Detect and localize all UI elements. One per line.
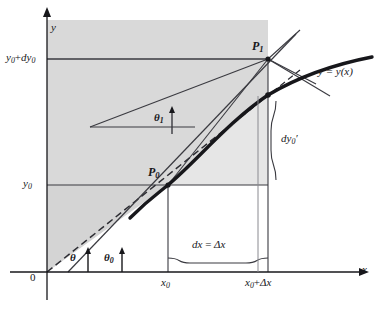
x-tick-x0: x0	[161, 277, 170, 290]
point-label-P1: P1	[252, 40, 264, 54]
x-tick-x0-plus-dx: x0+Δx	[245, 277, 271, 290]
x-axis-label: x	[362, 264, 367, 275]
dx-equals: =	[202, 238, 214, 250]
point-label-P0: P0	[148, 166, 160, 180]
dy0p-prime: ′	[295, 132, 297, 144]
marker-P0	[165, 182, 170, 187]
dy0prime-label: dy0′	[281, 133, 298, 146]
theta0-sub: 0	[110, 256, 114, 265]
dx-delta: Δx	[214, 238, 225, 250]
dx-brace	[168, 258, 268, 263]
theta-glyph: θ	[70, 251, 76, 263]
y0-sub: 0	[28, 182, 32, 191]
origin-label: 0	[30, 272, 36, 283]
P0-sub: 0	[155, 170, 159, 180]
angle-label-theta1: θ1	[154, 112, 164, 125]
dy0prime-brace	[271, 100, 276, 180]
x0-sub: 0	[166, 281, 170, 290]
differential-diagram: y x 0 y0+dy0 y0 x0 x0+Δx P0 P1 y = y(x) …	[0, 0, 380, 309]
dx-brace-label: dx = Δx	[192, 239, 225, 250]
angle-label-theta: θ	[70, 252, 76, 263]
curve-label: y = y(x)	[318, 66, 353, 77]
y-axis-label: y	[51, 22, 56, 33]
x0dx-delta: Δx	[260, 276, 271, 288]
theta1-sub: 1	[160, 116, 164, 125]
y-tick-y0-plus-dy0: y0+dy0	[6, 52, 35, 65]
diagram-canvas	[0, 0, 380, 309]
dx-text: dx	[192, 238, 202, 250]
y-tick-dy-sub: 0	[31, 56, 35, 65]
marker-Q	[265, 92, 271, 98]
marker-P1	[265, 56, 270, 61]
y-tick-y0: y0	[23, 178, 32, 191]
dy0p-base: dy	[281, 132, 291, 144]
angle-label-theta0: θ0	[104, 252, 114, 265]
P1-sub: 1	[259, 44, 263, 54]
y-tick-dy: dy	[21, 51, 31, 63]
